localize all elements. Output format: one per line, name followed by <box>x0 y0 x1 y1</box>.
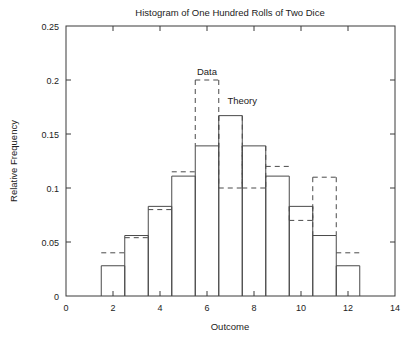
x-tick-label: 0 <box>63 303 68 313</box>
x-tick-label: 4 <box>157 303 162 313</box>
histogram-svg: Histogram of One Hundred Rolls of Two Di… <box>0 0 413 349</box>
plot-frame <box>66 26 395 296</box>
y-tick-label: 0 <box>54 292 59 302</box>
theory-bar <box>289 206 313 296</box>
theory-bar <box>313 236 337 296</box>
y-tick-label: 0.15 <box>41 130 59 140</box>
x-tick-label: 10 <box>296 303 306 313</box>
x-axis-ticks: 02468101214 <box>63 26 400 313</box>
y-tick-label: 0.2 <box>46 76 59 86</box>
x-tick-label: 2 <box>110 303 115 313</box>
y-tick-label: 0.1 <box>46 184 59 194</box>
chart-annotations: DataTheory <box>197 66 257 106</box>
x-tick-label: 6 <box>204 303 209 313</box>
x-tick-label: 12 <box>343 303 353 313</box>
y-tick-label: 0.05 <box>41 238 59 248</box>
theory-bar <box>172 176 196 296</box>
x-axis-title: Outcome <box>211 321 250 332</box>
chart-container: Histogram of One Hundred Rolls of Two Di… <box>0 0 413 349</box>
theory-bar <box>195 146 219 296</box>
theory-bar <box>148 206 172 296</box>
chart-annotation-label: Theory <box>227 95 257 106</box>
chart-annotation-label: Data <box>197 66 218 77</box>
theory-bar <box>219 116 243 296</box>
y-axis-ticks: 00.050.10.150.20.25 <box>41 22 395 302</box>
chart-title: Histogram of One Hundred Rolls of Two Di… <box>135 7 324 18</box>
theory-bar <box>242 146 266 296</box>
y-tick-label: 0.25 <box>41 22 59 32</box>
theory-bar <box>266 176 290 296</box>
theory-bars <box>101 116 360 296</box>
data-bars <box>101 80 360 253</box>
x-tick-label: 14 <box>390 303 400 313</box>
theory-bar <box>125 236 149 296</box>
x-tick-label: 8 <box>251 303 256 313</box>
y-axis-title: Relative Frequency <box>8 120 19 202</box>
